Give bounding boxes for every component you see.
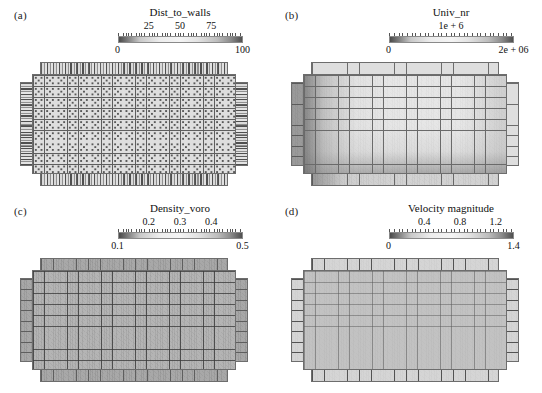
panel-a-tick-25: 25: [144, 19, 154, 32]
panel-d-strip-right: [505, 278, 519, 362]
cell-divisions: [312, 173, 498, 185]
cell-divisions: [235, 279, 247, 361]
panel-c-tick-04: 0.4: [205, 215, 218, 228]
texture-overlay: [312, 173, 498, 185]
panel-b-mesh: [271, 58, 542, 194]
panel-c: (c) Density_voro 0.2 0.3 0.4 0.1 0.5: [0, 196, 271, 392]
cell-divisions: [41, 173, 227, 185]
texture-overlay: [33, 271, 235, 369]
panel-d-domain-body: [303, 270, 507, 370]
texture-overlay: [312, 369, 498, 381]
panel-b-tick-1e6: 1e + 6: [438, 19, 463, 32]
panel-a-strip-right: [234, 82, 248, 166]
panel-d-tick-08: 0.8: [454, 215, 467, 228]
panel-a: (a) Dist_to_walls 25 50 75 0 100: [0, 0, 271, 196]
figure-container: (a) Dist_to_walls 25 50 75 0 100: [0, 0, 542, 393]
cell-grid: [304, 271, 506, 369]
panel-d: (d) Velocity magnitude 0.4 0.8 1.2 0 1.4: [271, 196, 542, 392]
panel-a-tick-75: 75: [206, 19, 216, 32]
panel-a-domain-body: [32, 74, 236, 174]
panel-b-colorbar-min: 0: [386, 43, 391, 57]
panel-a-colorbar-min: 0: [115, 43, 120, 57]
panel-c-colorbar: Density_voro 0.2 0.3 0.4 0.1 0.5: [104, 202, 256, 253]
panel-c-strip-bottom: [40, 368, 228, 382]
panel-a-colorbar-title: Dist_to_walls: [104, 6, 256, 19]
panel-a-strip-bottom: [40, 172, 228, 186]
panel-d-colorbar-inner-ticks: 0.4 0.8 1.2: [375, 215, 527, 228]
panel-d-colorbar-title: Velocity magnitude: [375, 202, 527, 215]
cell-grid: [33, 271, 235, 369]
panel-c-label: (c): [14, 205, 27, 217]
panel-b-colorbar: Univ_nr 1e + 6 0 2e + 06: [375, 6, 527, 57]
cell-divisions: [506, 83, 518, 165]
panel-a-colorbar-end-labels: 0 100: [118, 43, 243, 57]
panel-a-colorbar-inner-ticks: 25 50 75: [104, 19, 256, 32]
panel-a-colorbar: Dist_to_walls 25 50 75 0 100: [104, 6, 256, 57]
panel-a-label: (a): [14, 9, 27, 21]
panel-c-colorbar-gradient: [118, 232, 243, 239]
panel-b: (b) Univ_nr 1e + 6 0 2e + 06: [271, 0, 542, 196]
panel-d-colorbar: Velocity magnitude 0.4 0.8 1.2 0 1.4: [375, 202, 527, 253]
panel-c-colorbar-end-labels: 0.1 0.5: [118, 239, 243, 253]
panel-d-strip-bottom: [311, 368, 499, 382]
panel-c-tick-03: 0.3: [174, 215, 187, 228]
texture-overlay: [506, 279, 518, 361]
texture-overlay: [235, 279, 247, 361]
panel-c-strip-right: [234, 278, 248, 362]
cell-grid: [33, 75, 235, 173]
panel-d-mesh: [271, 254, 542, 390]
tick-pattern-icon: [312, 369, 498, 381]
panel-b-strip-bottom: [311, 172, 499, 186]
cell-divisions: [41, 369, 227, 381]
panel-a-colorbar-max: 100: [235, 43, 250, 57]
panel-b-colorbar-max: 2e + 06: [498, 43, 528, 57]
panel-d-colorbar-max: 1.4: [507, 239, 520, 253]
panel-a-mesh: [0, 58, 271, 194]
panel-b-colorbar-title: Univ_nr: [375, 6, 527, 19]
hatch-pattern-icon: [235, 83, 247, 165]
panel-d-tick-04: 0.4: [418, 215, 431, 228]
panel-d-colorbar-end-labels: 0 1.4: [389, 239, 514, 253]
panel-d-colorbar-min: 0: [386, 239, 391, 253]
panel-c-colorbar-max: 0.5: [236, 239, 249, 253]
panel-a-tick-50: 50: [175, 19, 185, 32]
panel-c-colorbar-title: Density_voro: [104, 202, 256, 215]
panel-d-label: (d): [285, 205, 298, 217]
panel-b-colorbar-gradient: [389, 36, 514, 43]
panel-b-colorbar-inner-ticks: 1e + 6: [375, 19, 527, 32]
tick-pattern-icon: [506, 279, 518, 361]
panel-b-colorbar-end-labels: 0 2e + 06: [389, 43, 514, 57]
panel-a-colorbar-gradient: [118, 36, 243, 43]
panel-c-mesh: [0, 254, 271, 390]
texture-overlay: [41, 369, 227, 381]
panel-b-label: (b): [285, 9, 298, 21]
hatch-pattern-icon: [41, 173, 227, 185]
dot-pattern-icon: [33, 75, 235, 173]
panel-b-domain-body: [303, 74, 507, 174]
panel-c-domain-body: [32, 270, 236, 370]
panel-c-tick-02: 0.2: [143, 215, 156, 228]
panel-d-tick-12: 1.2: [489, 215, 502, 228]
cell-grid: [304, 75, 506, 173]
panel-c-colorbar-inner-ticks: 0.2 0.3 0.4: [104, 215, 256, 228]
panel-c-colorbar-min: 0.1: [111, 239, 124, 253]
texture-overlay: [304, 271, 506, 369]
panel-d-colorbar-gradient: [389, 232, 514, 239]
cell-divisions: [235, 83, 247, 165]
panel-b-strip-right: [505, 82, 519, 166]
texture-overlay: [304, 75, 506, 173]
